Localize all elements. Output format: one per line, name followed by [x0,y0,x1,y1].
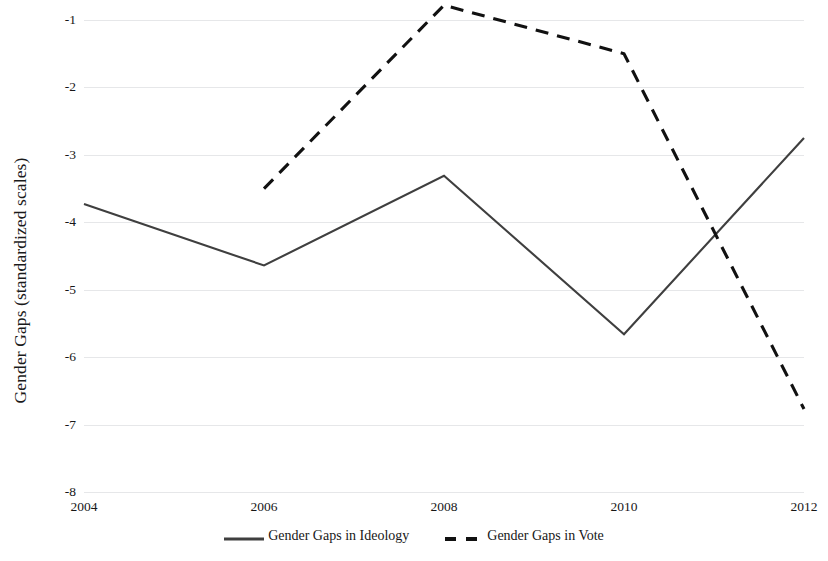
y-tick-label: -3 [46,148,76,162]
series-line-ideology [84,138,804,334]
y-tick-label: -5 [46,283,76,297]
x-tick-label: 2004 [49,498,119,516]
series-group [84,20,804,492]
line-chart-figure: Gender Gaps (standardized scales) -1 -2 … [0,0,828,561]
y-tick-label: -1 [46,13,76,27]
legend-label-ideology: Gender Gaps in Ideology [268,527,409,545]
legend-item-vote[interactable]: Gender Gaps in Vote [443,527,604,545]
y-tick-label: -2 [46,80,76,94]
chart-legend: Gender Gaps in Ideology Gender Gaps in V… [0,523,828,549]
y-tick-label: -8 [46,485,76,499]
legend-swatch-dashed-icon [443,531,483,541]
y-axis-tick-label-group: -1 -2 -3 -4 -5 -6 -7 -8 [36,20,76,492]
x-tick-label: 2012 [769,498,828,516]
x-tick-label: 2006 [229,498,299,516]
y-tick-label: -4 [46,215,76,229]
plot-area [84,20,804,492]
series-line-vote [264,5,804,409]
y-tick-label: -6 [46,350,76,364]
y-tick-label: -7 [46,418,76,432]
x-tick-label: 2010 [589,498,659,516]
legend-swatch-solid-icon [224,531,264,541]
x-tick-label: 2008 [409,498,479,516]
gridline [84,492,804,493]
y-axis-title: Gender Gaps (standardized scales) [0,0,40,561]
x-axis-tick-label-group: 2004 2006 2008 2010 2012 [84,498,804,520]
legend-item-ideology[interactable]: Gender Gaps in Ideology [224,527,409,545]
legend-label-vote: Gender Gaps in Vote [487,527,604,545]
